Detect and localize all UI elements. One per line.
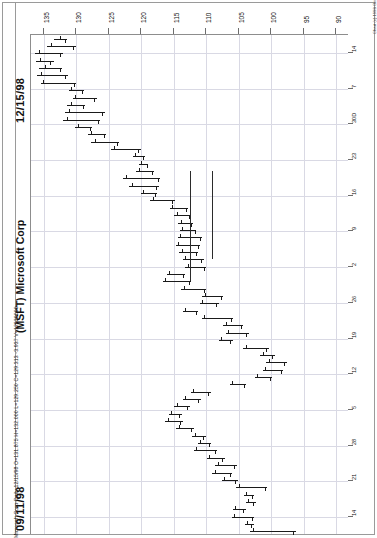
ohlc-open-tick <box>51 43 52 46</box>
ohlc-close-tick <box>230 474 231 477</box>
ohlc-close-tick <box>243 510 244 513</box>
ohlc-open-tick <box>132 183 133 186</box>
ohlc-open-tick <box>232 381 233 384</box>
ohlc-bar <box>245 524 254 525</box>
ohlc-open-tick <box>153 197 154 200</box>
ohlc-close-tick <box>82 91 83 94</box>
ohlc-open-tick <box>184 286 185 289</box>
ohlc-close-tick <box>272 356 273 359</box>
ohlc-open-tick <box>193 389 194 392</box>
ohlc-open-tick <box>218 462 219 465</box>
ohlc-open-tick <box>75 95 76 98</box>
date-tick-12: 12 <box>348 373 362 374</box>
ohlc-open-tick <box>182 227 183 230</box>
price-tick-label: 120 <box>140 12 147 23</box>
ohlc-close-tick <box>281 371 282 374</box>
ohlc-close-tick <box>189 282 190 285</box>
ohlc-open-tick <box>202 300 203 303</box>
ohlc-open-tick <box>169 271 170 274</box>
ohlc-open-tick <box>135 153 136 156</box>
date-gridline <box>31 410 348 411</box>
date-gridline <box>31 517 348 518</box>
ohlc-close-tick <box>155 194 156 197</box>
ohlc-open-tick <box>39 50 40 53</box>
date-tick-mark <box>348 230 353 231</box>
price-tick-label: 105 <box>238 12 245 23</box>
ohlc-close-tick <box>60 54 61 57</box>
ohlc-close-tick <box>235 481 236 484</box>
ohlc-bar <box>243 348 268 349</box>
ohlc-open-tick <box>188 264 189 267</box>
price-axis: 1351301251201151101051009590 <box>30 3 348 34</box>
plot-area[interactable] <box>30 34 348 534</box>
ohlc-close-tick <box>266 349 267 352</box>
ohlc-close-tick <box>201 260 202 263</box>
date-tick-5: 5 <box>348 409 362 410</box>
quote-status-line: Microsoft Corp-Daily 12/15/98 O=131.875 … <box>13 306 19 538</box>
chart-end-date: 12/15/98 <box>14 78 26 123</box>
ohlc-bar <box>202 318 234 319</box>
ohlc-open-tick <box>221 337 222 340</box>
ohlc-open-tick <box>168 418 169 421</box>
date-tick-28: 28 <box>348 445 362 446</box>
date-gridline <box>31 160 348 161</box>
ohlc-bar <box>36 61 55 62</box>
ohlc-close-tick <box>65 76 66 79</box>
ohlc-open-tick <box>247 521 248 524</box>
date-tick-19: 19 <box>348 338 362 339</box>
cursor-vertical-line[interactable] <box>190 171 191 281</box>
ohlc-close-tick <box>252 496 253 499</box>
ohlc-close-tick <box>284 363 285 366</box>
ohlc-bar <box>47 46 76 47</box>
ohlc-open-tick <box>95 139 96 142</box>
date-tick-label: 2 <box>351 263 357 266</box>
ohlc-open-tick <box>265 367 266 370</box>
ohlc-open-tick <box>257 374 258 377</box>
date-tick-14: 14 <box>348 52 362 53</box>
price-gridline <box>336 35 337 534</box>
ohlc-close-tick <box>158 179 159 182</box>
date-tick-label: 21 <box>351 474 357 480</box>
cursor-vertical-line-secondary[interactable] <box>212 171 213 259</box>
price-gridline <box>109 35 110 534</box>
ohlc-open-tick <box>114 146 115 149</box>
ohlc-open-tick <box>60 36 61 39</box>
ohlc-open-tick <box>171 411 172 414</box>
ohlc-close-tick <box>187 407 188 410</box>
ohlc-close-tick <box>102 113 103 116</box>
ohlc-open-tick <box>263 352 264 355</box>
ohlc-close-tick <box>65 40 66 43</box>
price-tick-label: 115 <box>173 13 180 23</box>
ohlc-close-tick <box>270 378 271 381</box>
ohlc-close-tick <box>222 459 223 462</box>
ohlc-close-tick <box>104 135 105 138</box>
ohlc-open-tick <box>269 359 270 362</box>
ohlc-bar <box>176 245 201 246</box>
ohlc-open-tick <box>235 506 236 509</box>
ohlc-open-tick <box>141 161 142 164</box>
ohlc-open-tick <box>185 308 186 311</box>
ohlc-close-tick <box>83 106 84 109</box>
price-tick-label: 125 <box>108 12 115 23</box>
ohlc-close-tick <box>94 99 95 102</box>
price-gridline <box>304 35 305 534</box>
ohlc-close-tick <box>209 444 210 447</box>
ohlc-bar <box>163 281 192 282</box>
ohlc-bar <box>236 487 267 488</box>
ohlc-close-tick <box>183 275 184 278</box>
ohlc-open-tick <box>246 345 247 348</box>
ohlc-bar <box>150 200 175 201</box>
ohlc-bar <box>73 98 97 99</box>
date-tick-mark <box>348 266 353 267</box>
ohlc-close-tick <box>179 415 180 418</box>
ohlc-bar <box>250 531 295 532</box>
ohlc-close-tick <box>252 518 253 521</box>
price-gridline <box>174 35 175 534</box>
ohlc-bar <box>91 142 119 143</box>
ohlc-close-tick <box>117 143 118 146</box>
date-gridline <box>31 481 348 482</box>
ohlc-open-tick <box>172 205 173 208</box>
date-gridline <box>31 303 348 304</box>
ohlc-close-tick <box>143 157 144 160</box>
ohlc-open-tick <box>143 190 144 193</box>
